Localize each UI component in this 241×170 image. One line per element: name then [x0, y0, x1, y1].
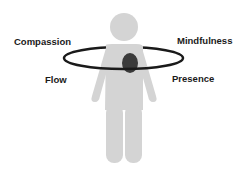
- head: [110, 13, 138, 41]
- torso: [105, 44, 143, 110]
- human-figure: [91, 13, 156, 163]
- right-leg: [125, 105, 142, 163]
- label-mindfulness: Mindfulness: [177, 35, 232, 46]
- label-flow: Flow: [45, 74, 67, 85]
- label-presence: Presence: [172, 73, 214, 84]
- left-leg: [106, 105, 123, 163]
- human-figure-diagram: [0, 0, 241, 170]
- label-compassion: Compassion: [14, 36, 71, 47]
